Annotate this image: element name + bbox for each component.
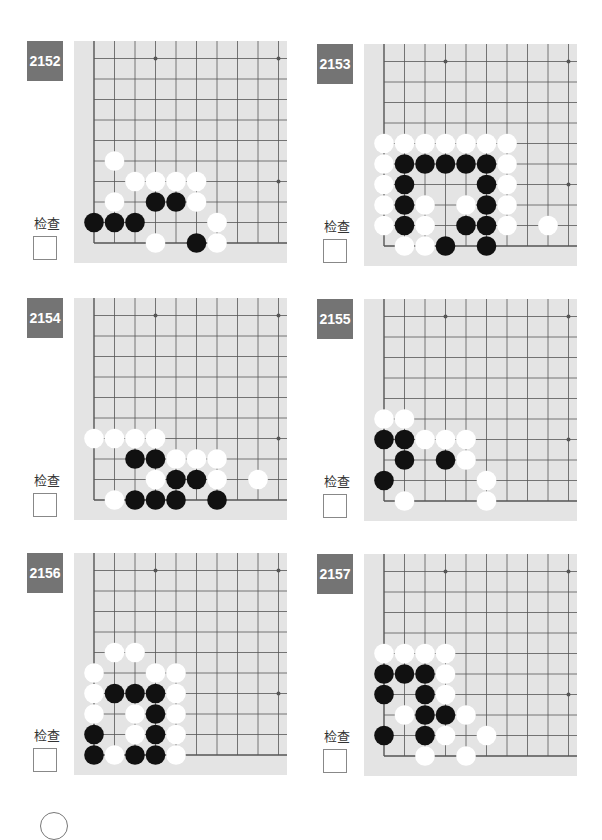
white-stone (146, 429, 166, 449)
check-checkbox[interactable] (33, 748, 57, 772)
white-stone (436, 685, 456, 705)
problem-number-badge: 2153 (317, 44, 353, 84)
white-stone (415, 746, 435, 766)
white-stone (105, 192, 125, 212)
white-stone (497, 216, 517, 236)
black-stone (477, 195, 497, 215)
white-stone (415, 195, 435, 215)
white-stone (415, 236, 435, 256)
white-stone (84, 663, 104, 683)
white-stone (477, 134, 497, 154)
black-stone (415, 664, 435, 684)
black-stone (166, 192, 186, 212)
black-stone (395, 664, 415, 684)
go-board (364, 44, 577, 266)
check-label: 检查 (319, 471, 355, 490)
check-checkbox[interactable] (323, 749, 347, 773)
check-checkbox[interactable] (33, 493, 57, 517)
white-stone (248, 470, 268, 490)
go-board (364, 554, 577, 776)
white-stone (415, 430, 435, 450)
check-label: 检查 (29, 470, 65, 489)
white-stone (374, 175, 394, 195)
black-stone (436, 705, 456, 725)
black-stone (456, 216, 476, 236)
go-board (74, 298, 287, 520)
problem-2156: 2156 检查 (27, 553, 317, 788)
white-stone (436, 134, 456, 154)
problem-2157: 2157 检查 (317, 554, 602, 789)
white-stone (207, 470, 227, 490)
white-stone (166, 449, 186, 469)
white-stone (207, 213, 227, 233)
black-stone (125, 213, 145, 233)
check-checkbox[interactable] (33, 236, 57, 260)
white-stone (395, 705, 415, 725)
black-stone (187, 470, 207, 490)
black-stone (374, 664, 394, 684)
white-stone (538, 216, 558, 236)
white-stone (84, 684, 104, 704)
white-stone (166, 704, 186, 724)
black-stone (84, 213, 104, 233)
white-stone (497, 134, 517, 154)
white-stone (477, 471, 497, 491)
black-stone (415, 685, 435, 705)
problem-2155: 2155 检查 (317, 299, 602, 534)
white-stone (105, 643, 125, 663)
black-stone (146, 745, 166, 765)
page-number-circle (40, 812, 68, 840)
white-stone (207, 233, 227, 253)
white-stone (374, 154, 394, 174)
black-stone (395, 450, 415, 470)
white-stone (125, 429, 145, 449)
black-stone (436, 450, 456, 470)
white-stone (415, 216, 435, 236)
white-stone (374, 195, 394, 215)
white-stone (456, 430, 476, 450)
board-grid (364, 44, 577, 266)
white-stone (395, 134, 415, 154)
go-board (364, 299, 577, 521)
problem-number-badge: 2152 (27, 41, 63, 81)
go-board (74, 553, 287, 775)
black-stone (436, 236, 456, 256)
white-stone (166, 745, 186, 765)
check-label: 检查 (29, 725, 65, 744)
white-stone (497, 175, 517, 195)
white-stone (477, 726, 497, 746)
white-stone (477, 491, 497, 511)
white-stone (187, 192, 207, 212)
black-stone (166, 470, 186, 490)
check-checkbox[interactable] (323, 494, 347, 518)
black-stone (125, 684, 145, 704)
black-stone (374, 685, 394, 705)
black-stone (374, 726, 394, 746)
problem-2154: 2154 检查 (27, 298, 317, 533)
white-stone (436, 644, 456, 664)
go-board (74, 41, 287, 263)
white-stone (456, 195, 476, 215)
white-stone (187, 172, 207, 192)
white-stone (146, 470, 166, 490)
black-stone (395, 154, 415, 174)
white-stone (207, 449, 227, 469)
white-stone (374, 134, 394, 154)
black-stone (146, 490, 166, 510)
black-stone (395, 195, 415, 215)
white-stone (146, 663, 166, 683)
check-label: 检查 (319, 726, 355, 745)
black-stone (146, 449, 166, 469)
white-stone (497, 154, 517, 174)
board-grid (74, 553, 287, 775)
white-stone (166, 684, 186, 704)
white-stone (166, 725, 186, 745)
check-label: 检查 (319, 216, 355, 235)
black-stone (477, 175, 497, 195)
white-stone (166, 172, 186, 192)
check-checkbox[interactable] (323, 239, 347, 263)
black-stone (146, 192, 166, 212)
check-label: 检查 (29, 213, 65, 232)
problem-number-badge: 2157 (317, 554, 353, 594)
white-stone (436, 726, 456, 746)
